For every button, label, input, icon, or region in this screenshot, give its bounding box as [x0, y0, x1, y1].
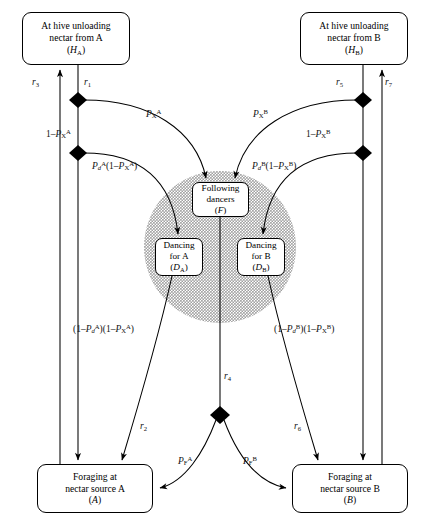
- node-b-line1: Foraging at: [328, 471, 372, 482]
- node-hb-line2: nectar from B: [327, 32, 380, 43]
- node-dancing-for-a[interactable]: Dancing for A (DA): [155, 238, 203, 276]
- node-db-symbol: (DB): [252, 262, 269, 272]
- node-b-symbol: (B): [344, 494, 356, 505]
- label-pd-b: PdB(1–PXB): [252, 160, 296, 172]
- diagram-edges-layer: [0, 0, 429, 530]
- junction-left-upper: [69, 92, 87, 108]
- label-px-b: PXB: [253, 108, 268, 120]
- node-db-line1: Dancing: [245, 240, 276, 250]
- edge-pf-b: [224, 420, 286, 488]
- node-f-line1: Following: [202, 183, 240, 193]
- node-f-symbol: (F): [215, 205, 227, 215]
- label-pf-b: PFB: [243, 455, 257, 467]
- junction-right-upper: [354, 92, 372, 108]
- junction-bottom-center: [210, 406, 230, 424]
- node-following-dancers[interactable]: Following dancers (F): [192, 182, 249, 217]
- edge-r2: [122, 276, 172, 460]
- edge-pf-a: [160, 420, 216, 488]
- node-foraging-a[interactable]: Foraging at nectar source A (A): [37, 464, 153, 513]
- node-db-line2: for B: [251, 251, 270, 261]
- label-r2: r2: [140, 422, 147, 432]
- node-a-line1: Foraging at: [73, 471, 117, 482]
- junction-right-lower: [354, 145, 372, 161]
- node-ha-line2: nectar from A: [49, 32, 102, 43]
- label-px-a: PXA: [146, 108, 161, 120]
- node-ha-symbol: (HA): [67, 44, 85, 55]
- label-r1: r1: [84, 78, 91, 88]
- label-r7: r7: [385, 78, 392, 88]
- node-a-line2: nectar source A: [65, 483, 125, 494]
- label-r5: r5: [336, 78, 343, 88]
- node-hb-line1: At hive unloading: [319, 20, 388, 31]
- node-foraging-b[interactable]: Foraging at nectar source B (B): [292, 464, 408, 513]
- label-left-exit: (1–PdA)(1–PXA): [73, 323, 134, 335]
- node-b-line2: nectar source B: [320, 483, 380, 494]
- junction-left-lower: [69, 145, 87, 161]
- node-da-symbol: (DA): [170, 262, 187, 272]
- node-hive-unloading-b[interactable]: At hive unloading nectar from B (HB): [300, 12, 408, 65]
- edge-r6: [268, 276, 318, 460]
- label-one-minus-px-a: 1–PXA: [46, 128, 71, 140]
- node-hive-unloading-a[interactable]: At hive unloading nectar from A (HA): [22, 12, 130, 65]
- label-right-exit: (1–PdB)(1–PXB): [274, 323, 334, 335]
- node-hb-symbol: (HB): [345, 44, 363, 55]
- node-dancing-for-b[interactable]: Dancing for B (DB): [237, 238, 285, 276]
- node-a-symbol: (A): [89, 494, 101, 505]
- node-da-line1: Dancing: [163, 240, 194, 250]
- label-one-minus-px-b: 1–PXB: [306, 128, 331, 140]
- label-pd-a: PdA(1–PXA): [92, 160, 137, 172]
- node-f-line2: dancers: [206, 194, 234, 204]
- label-r3: r3: [32, 78, 39, 88]
- label-r6: r6: [294, 422, 301, 432]
- label-pf-a: PFA: [178, 455, 192, 467]
- node-ha-line1: At hive unloading: [41, 20, 110, 31]
- diagram-canvas: At hive unloading nectar from A (HA) At …: [0, 0, 429, 530]
- node-da-line2: for A: [169, 251, 188, 261]
- label-r4: r4: [224, 372, 231, 382]
